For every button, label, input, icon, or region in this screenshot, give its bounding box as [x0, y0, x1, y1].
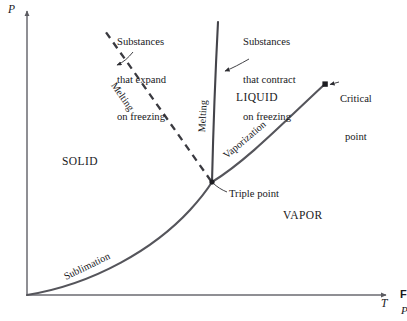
annotation-expand-line-2: that expand	[117, 74, 166, 87]
triple-point-label: Triple point	[229, 188, 279, 201]
annotation-expand-line-3: on freezing	[117, 111, 166, 124]
temperature-axis-label: T	[381, 297, 387, 311]
melting-curve-solid	[212, 22, 218, 182]
caption-fragment-bold: F	[400, 288, 407, 301]
critical-point-label-line-1: Critical	[340, 93, 372, 106]
annotation-contract-on-freezing: Substances that contract on freezing	[243, 11, 296, 149]
region-label-vapor: VAPOR	[283, 209, 323, 223]
annotation-expand-on-freezing: Substances that expand on freezing	[117, 11, 166, 149]
annotation-contract-line-3: on freezing	[243, 111, 296, 124]
critical-point-marker	[322, 81, 327, 86]
region-label-solid: SOLID	[62, 155, 98, 169]
annotation-contract-line-1: Substances	[243, 36, 296, 49]
critical-point-label: Critical point	[340, 68, 372, 168]
annotation-expand-line-1: Substances	[117, 36, 166, 49]
phase-diagram-figure: P T SOLID LIQUID VAPOR Melting Melting V…	[0, 0, 407, 321]
critical-point-leader-line	[330, 82, 339, 85]
caption-fragment-italic: P	[401, 304, 407, 317]
curve-label-melting-solid: Melting	[196, 100, 210, 133]
pressure-axis-label: P	[8, 3, 15, 17]
critical-point-label-line-2: point	[340, 131, 372, 144]
triple-point-leader-line	[213, 183, 227, 192]
sublimation-curve	[27, 182, 212, 295]
annotation-contract-line-2: that contract	[243, 74, 296, 87]
